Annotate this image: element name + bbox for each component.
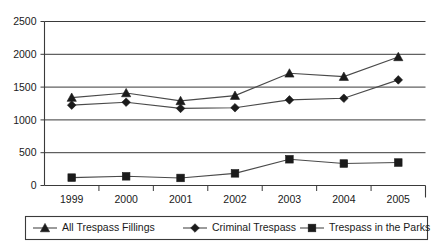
line-chart: 05001000150020002500 1999200020012002200… — [0, 0, 435, 249]
x-axis-label-1999: 1999 — [60, 193, 84, 205]
x-axis-label-2004: 2004 — [332, 193, 356, 205]
y-axis-label-1500: 1500 — [13, 81, 37, 93]
data-point-2003 — [286, 155, 294, 163]
legend-label: Criminal Trespass — [212, 221, 296, 233]
x-axis-label-2001: 2001 — [169, 193, 193, 205]
x-axis-label-2000: 2000 — [114, 193, 138, 205]
data-point-2002 — [231, 170, 239, 178]
y-axis-label-500: 500 — [19, 146, 37, 158]
y-axis-label-0: 0 — [31, 179, 37, 191]
x-axis-label-2003: 2003 — [278, 193, 302, 205]
x-axis-label-2005: 2005 — [387, 193, 411, 205]
chart-canvas: 05001000150020002500 1999200020012002200… — [0, 0, 435, 249]
y-axis-label-1000: 1000 — [13, 114, 37, 126]
legend-label: All Trespass Fillings — [62, 221, 155, 233]
data-point-2001 — [177, 174, 185, 182]
data-point-2000 — [122, 173, 130, 181]
data-point-1999 — [68, 174, 76, 182]
x-axis-label-2002: 2002 — [223, 193, 247, 205]
legend-marker-square-icon — [308, 224, 316, 232]
data-point-2005 — [394, 159, 402, 167]
y-axis-label-2500: 2500 — [13, 15, 37, 27]
legend-label: Trespass in the Parks — [329, 221, 430, 233]
chart-legend: All Trespass FillingsCriminal TrespassTr… — [26, 217, 431, 240]
y-axis-label-2000: 2000 — [13, 48, 37, 60]
data-point-2004 — [340, 160, 348, 168]
chart-background — [0, 0, 435, 249]
